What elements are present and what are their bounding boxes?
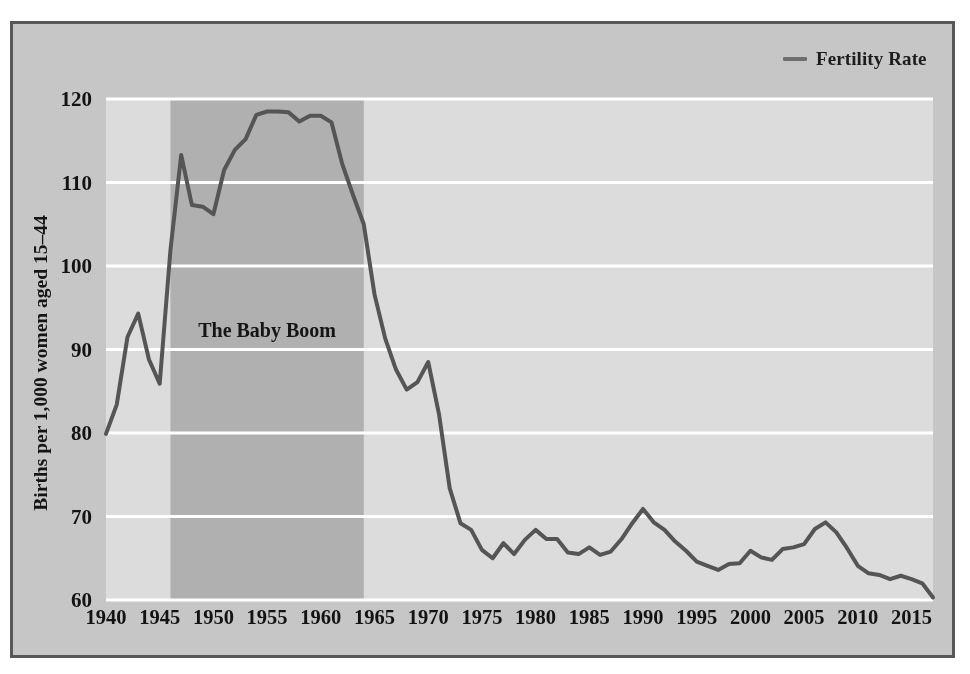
x-tick-label: 2000 <box>730 606 771 628</box>
x-tick-label: 1975 <box>461 606 502 628</box>
x-tick-label: 1990 <box>623 606 664 628</box>
x-tick-label: 1965 <box>354 606 395 628</box>
chart-card-frame: Fertility Rate Births per 1,000 women ag… <box>10 21 955 658</box>
x-axis-ticks: 1940194519501955196019651970197519801985… <box>86 606 933 628</box>
x-tick-label: 1955 <box>247 606 288 628</box>
x-tick-label: 1995 <box>676 606 717 628</box>
fertility-rate-chart-figure: Fertility Rate Births per 1,000 women ag… <box>0 0 970 674</box>
y-tick-label: 120 <box>61 87 93 111</box>
y-tick-label: 90 <box>71 338 92 362</box>
y-tick-label: 80 <box>71 421 92 445</box>
legend-line-dash-marker-icon <box>783 57 807 61</box>
y-axis-ticks: 60708090100110120 <box>61 87 93 612</box>
y-axis-label: Births per 1,000 women aged 15–44 <box>30 113 52 613</box>
baby-boom-annotation-label: The Baby Boom <box>198 319 336 342</box>
legend-label: Fertility Rate <box>816 48 927 70</box>
baby-boom-annotation: The Baby Boom <box>198 319 336 342</box>
x-tick-label: 2005 <box>784 606 825 628</box>
x-tick-label: 1940 <box>86 606 127 628</box>
x-tick-label: 1945 <box>139 606 180 628</box>
x-tick-label: 1970 <box>408 606 449 628</box>
chart-plot-area: 60708090100110120 1940194519501955196019… <box>13 24 958 661</box>
x-tick-label: 1985 <box>569 606 610 628</box>
chart-legend: Fertility Rate <box>783 48 927 70</box>
y-tick-label: 70 <box>71 505 92 529</box>
x-tick-label: 1950 <box>193 606 234 628</box>
x-tick-label: 1960 <box>300 606 341 628</box>
y-tick-label: 110 <box>62 171 92 195</box>
x-tick-label: 2015 <box>891 606 932 628</box>
x-tick-label: 1980 <box>515 606 556 628</box>
x-tick-label: 2010 <box>837 606 878 628</box>
y-tick-label: 100 <box>61 254 93 278</box>
